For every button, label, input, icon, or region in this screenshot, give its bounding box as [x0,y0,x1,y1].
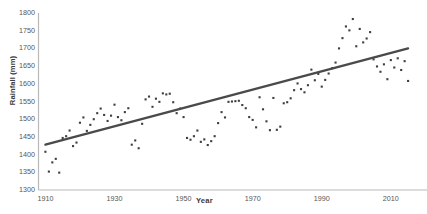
data-point [359,28,361,30]
data-point [107,120,109,122]
data-point [134,139,136,141]
data-point [293,89,295,91]
data-point [252,119,254,121]
data-point [117,116,119,118]
data-point [231,100,233,102]
data-point [110,115,112,117]
data-point [366,37,368,39]
data-point [75,142,77,144]
data-point [183,116,185,118]
data-point [165,93,167,95]
data-point [248,116,250,118]
data-point [314,79,316,81]
data-point [186,137,188,139]
data-point [151,106,153,108]
data-point [113,104,115,106]
data-point [221,111,223,113]
data-point [290,97,292,99]
data-point [93,118,95,120]
data-point [203,138,205,140]
data-point [379,71,381,73]
data-point [172,101,174,103]
data-point [82,116,84,118]
data-point [245,107,247,109]
data-point [51,161,53,163]
data-point [241,104,243,106]
data-point [272,97,274,99]
data-point [238,100,240,102]
data-point [193,135,195,137]
data-point [145,98,147,100]
data-point [148,95,150,97]
data-point [162,92,164,94]
data-point [55,158,57,160]
data-point [297,82,299,84]
data-point [131,144,133,146]
data-point [262,108,264,110]
data-point [400,69,402,71]
data-point [227,101,229,103]
data-point [158,101,160,103]
data-point [348,29,350,31]
data-point [259,96,261,98]
data-point [155,98,157,100]
data-point [355,45,357,47]
data-point [127,107,129,109]
data-point [300,88,302,90]
data-point [138,147,140,149]
data-point [62,137,64,139]
data-point [48,171,50,173]
data-point [100,108,102,110]
data-point [393,66,395,68]
data-point [276,129,278,131]
data-point [65,135,67,137]
data-point [196,129,198,131]
data-point [269,129,271,131]
data-point [255,126,257,128]
data-point [362,41,364,43]
data-point [79,122,81,124]
data-point [286,101,288,103]
data-point [72,145,74,147]
data-point [86,130,88,132]
data-point [265,120,267,122]
data-point [404,60,406,62]
data-point [103,114,105,116]
data-point [386,78,388,80]
data-point [214,135,216,137]
data-point [369,31,371,33]
data-point [345,25,347,27]
data-point [217,122,219,124]
data-point [310,69,312,71]
data-point [279,126,281,128]
chart-svg [0,0,427,214]
data-point [397,57,399,59]
data-point [321,86,323,88]
chart-page: Rainfall (mm) Year 130013501400145015001… [0,0,427,214]
data-point [141,123,143,125]
data-point [207,144,209,146]
data-point [176,112,178,114]
data-point [324,79,326,81]
data-point [224,116,226,118]
data-point [383,63,385,65]
data-point [120,119,122,121]
data-point [124,111,126,113]
data-point [338,47,340,49]
data-point [210,140,212,142]
data-point [234,100,236,102]
data-point [200,141,202,143]
data-point [69,129,71,131]
data-point [352,18,354,20]
data-point [96,112,98,114]
data-point [328,72,330,74]
data-point [58,172,60,174]
data-point [341,37,343,39]
trend-line [45,48,408,144]
scatter-plot-area [0,0,427,214]
data-point [307,84,309,86]
data-point [169,93,171,95]
data-point [189,139,191,141]
data-point [407,80,409,82]
data-point [283,102,285,104]
